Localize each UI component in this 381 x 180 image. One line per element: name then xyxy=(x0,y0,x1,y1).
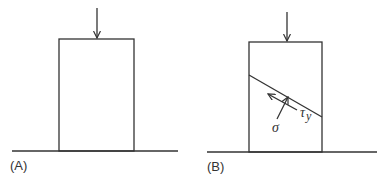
diagram-canvas: (A) σ τy (B) xyxy=(0,0,381,180)
tau-subscript: y xyxy=(305,109,312,123)
panel-label-a: (A) xyxy=(10,158,27,173)
panel-a: (A) xyxy=(10,8,178,173)
panel-b: σ τy (B) xyxy=(207,12,377,174)
panel-label-b: (B) xyxy=(207,159,224,174)
block-a xyxy=(59,39,134,151)
block-b xyxy=(249,42,322,152)
sigma-label: σ xyxy=(272,120,280,135)
